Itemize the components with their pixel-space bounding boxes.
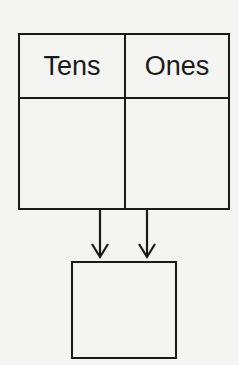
arrow-ones-to-result [139, 210, 155, 257]
place-value-diagram: Tens Ones [0, 0, 239, 365]
result-box [71, 261, 177, 359]
arrow-tens-to-result [92, 210, 108, 257]
